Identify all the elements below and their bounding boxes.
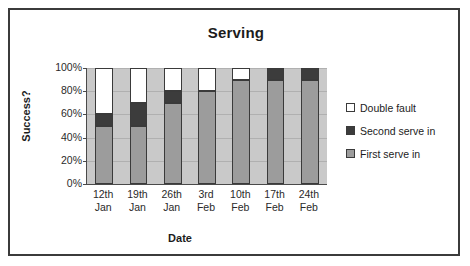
stacked-bar[interactable]	[130, 68, 148, 184]
bar-segment[interactable]	[301, 68, 319, 80]
bar-segment[interactable]	[267, 68, 285, 80]
x-tick-label: 10thFeb	[223, 188, 257, 213]
stacked-bar[interactable]	[198, 68, 216, 184]
bar-segment[interactable]	[130, 68, 148, 103]
legend-label: Second serve in	[360, 125, 435, 137]
y-tick-label: 0%	[42, 178, 82, 188]
legend-swatch-icon	[346, 103, 355, 112]
x-tick-label-day: 17th	[257, 188, 291, 201]
chart-legend: Double faultSecond serve inFirst serve i…	[346, 98, 458, 167]
y-axis-tick-labels: 0%20%40%60%80%100%	[36, 68, 82, 184]
x-tick-label: 12thJan	[86, 188, 120, 213]
x-tick-label-day: 3rd	[189, 188, 223, 201]
y-tick-label: 40%	[42, 132, 82, 142]
legend-item[interactable]: Second serve in	[346, 121, 458, 140]
y-tick-label: 60%	[42, 108, 82, 118]
bar-slot	[258, 68, 292, 184]
x-tick-label: 26thJan	[155, 188, 189, 213]
x-tick-label: 17thFeb	[257, 188, 291, 213]
bar-slot	[121, 68, 155, 184]
bar-segment[interactable]	[267, 80, 285, 184]
plot-area	[86, 68, 327, 185]
x-tick-label-day: 10th	[223, 188, 257, 201]
x-tick-label-month: Feb	[257, 201, 291, 214]
x-tick-label: 19thJan	[120, 188, 154, 213]
chart-title: Serving	[10, 24, 462, 41]
bar-segment[interactable]	[232, 80, 250, 184]
chart-frame: Serving Success? 0%20%40%60%80%100% 12th…	[8, 8, 460, 256]
x-tick-label-month: Feb	[292, 201, 326, 214]
bar-segment[interactable]	[95, 68, 113, 114]
bar-segment[interactable]	[95, 114, 113, 126]
legend-item[interactable]: Double fault	[346, 98, 458, 117]
bar-segment[interactable]	[198, 68, 216, 91]
x-tick-label: 3rdFeb	[189, 188, 223, 213]
y-tick-mark	[83, 184, 87, 185]
legend-label: Double fault	[360, 102, 416, 114]
x-tick-label: 24thFeb	[292, 188, 326, 213]
x-tick-label-month: Feb	[189, 201, 223, 214]
x-tick-label-month: Jan	[86, 201, 120, 214]
x-axis-title: Date	[50, 232, 310, 244]
stacked-bar[interactable]	[164, 68, 182, 184]
chart-page: Serving Success? 0%20%40%60%80%100% 12th…	[0, 0, 470, 266]
bar-segment[interactable]	[164, 91, 182, 103]
bar-segment[interactable]	[164, 68, 182, 91]
legend-item[interactable]: First serve in	[346, 144, 458, 163]
bar-segment[interactable]	[130, 126, 148, 184]
bar-slot	[190, 68, 224, 184]
bar-segment[interactable]	[164, 103, 182, 184]
x-tick-label-month: Jan	[120, 201, 154, 214]
legend-swatch-icon	[346, 149, 355, 158]
x-tick-label-day: 12th	[86, 188, 120, 201]
bar-slot	[87, 68, 121, 184]
legend-swatch-icon	[346, 126, 355, 135]
bar-segment[interactable]	[301, 80, 319, 184]
x-axis-tick-labels: 12thJan19thJan26thJan3rdFeb10thFeb17thFe…	[86, 188, 326, 222]
x-tick-label-month: Jan	[155, 201, 189, 214]
x-tick-label-day: 19th	[120, 188, 154, 201]
y-tick-label: 100%	[42, 62, 82, 72]
stacked-bar[interactable]	[232, 68, 250, 184]
y-tick-label: 20%	[42, 155, 82, 165]
bar-segment[interactable]	[95, 126, 113, 184]
bar-slot	[224, 68, 258, 184]
legend-label: First serve in	[360, 148, 420, 160]
bar-slot	[293, 68, 327, 184]
stacked-bar[interactable]	[95, 68, 113, 184]
x-tick-label-month: Feb	[223, 201, 257, 214]
bar-slot	[156, 68, 190, 184]
bar-segment[interactable]	[130, 103, 148, 126]
stacked-bar[interactable]	[301, 68, 319, 184]
x-tick-label-day: 24th	[292, 188, 326, 201]
stacked-bar[interactable]	[267, 68, 285, 184]
bar-segment[interactable]	[232, 68, 250, 80]
y-axis-title: Success?	[20, 76, 32, 156]
x-tick-label-day: 26th	[155, 188, 189, 201]
bar-segment[interactable]	[198, 91, 216, 184]
y-tick-label: 80%	[42, 85, 82, 95]
